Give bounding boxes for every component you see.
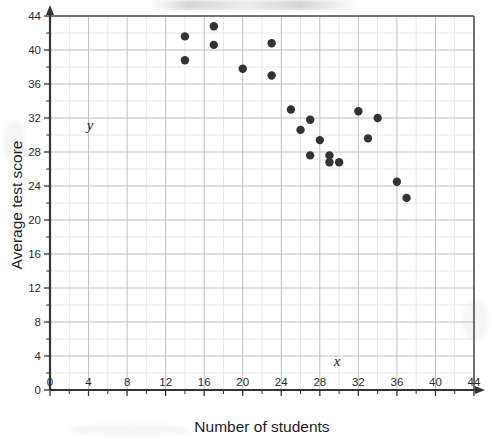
y-tick-label: 32 (28, 112, 41, 124)
data-point (210, 41, 218, 49)
data-point (306, 151, 314, 159)
data-point (402, 194, 410, 202)
data-point-group (181, 22, 411, 202)
minor-gridlines (50, 16, 474, 390)
y-tick-label: 12 (28, 282, 41, 294)
y-axis-arrowhead (46, 5, 54, 15)
x-tick-label: 28 (313, 376, 326, 388)
scatter-plot-figure: 048121620242832364044 048121620242832364… (0, 0, 492, 439)
x-tick-label: 8 (124, 376, 130, 388)
y-tick-label: 24 (28, 180, 41, 192)
y-tick-label: 28 (28, 146, 41, 158)
data-point (316, 136, 324, 144)
data-point (239, 65, 247, 73)
x-tick-label: 12 (159, 376, 172, 388)
x-tick-label: 44 (468, 376, 481, 388)
y-tick-label: 16 (28, 248, 41, 260)
axis-lines (46, 5, 485, 394)
y-tick-label: 4 (35, 350, 42, 362)
data-point (296, 126, 304, 134)
x-tick-label: 16 (198, 376, 211, 388)
y-tick-label: 0 (35, 384, 41, 396)
y-tick-label: 20 (28, 214, 41, 226)
x-tick-label: 40 (429, 376, 442, 388)
x-tick-label: 4 (85, 376, 92, 388)
data-point (335, 158, 343, 166)
data-point (306, 116, 314, 124)
y-axis-title: Average test score (8, 141, 25, 270)
y-variable-label: y (85, 117, 94, 133)
data-point (364, 134, 372, 142)
x-tick-label: 0 (47, 376, 53, 388)
data-point (393, 178, 401, 186)
data-point (287, 105, 295, 113)
data-point (325, 158, 333, 166)
x-tick-label: 24 (275, 376, 288, 388)
y-tick-label: 36 (28, 78, 41, 90)
data-point (210, 22, 218, 30)
x-axis-title: Number of students (194, 418, 330, 435)
data-point (373, 114, 381, 122)
data-point (181, 56, 189, 64)
y-tick-label: 44 (28, 10, 41, 22)
y-tick-label: 8 (35, 316, 41, 328)
data-point (267, 71, 275, 79)
x-tick-label: 32 (352, 376, 365, 388)
data-point (267, 39, 275, 47)
x-tick-label: 20 (236, 376, 249, 388)
data-point (181, 32, 189, 40)
y-tick-label: 40 (28, 44, 41, 56)
x-tick-label: 36 (391, 376, 404, 388)
y-axis-tick-labels: 048121620242832364044 (28, 10, 41, 396)
plot-svg: 048121620242832364044 048121620242832364… (0, 0, 492, 439)
x-variable-label: x (333, 353, 341, 369)
data-point (354, 107, 362, 115)
